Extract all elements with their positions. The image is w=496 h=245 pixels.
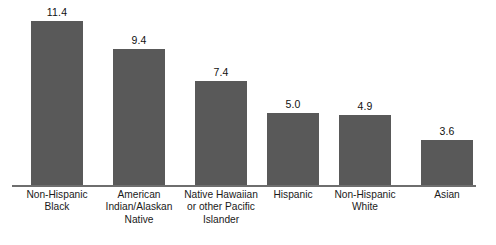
category-label-line: Native xyxy=(93,214,185,226)
bar xyxy=(195,81,247,185)
bar-group-native-hawaiian-pacific-islander: 7.4 xyxy=(195,0,247,186)
bar-value-label: 5.0 xyxy=(253,98,333,110)
bar-value-label: 11.4 xyxy=(17,6,97,18)
bar xyxy=(267,113,319,185)
category-label-non-hispanic-black: Non-Hispanic Black xyxy=(11,189,103,214)
category-label-line: Non-Hispanic xyxy=(11,189,103,201)
bar-value-label: 7.4 xyxy=(181,66,261,78)
category-label-non-hispanic-white: Non-Hispanic White xyxy=(319,189,411,214)
category-label-line: White xyxy=(319,201,411,213)
category-label-american-indian-alaskan-native: American Indian/Alaskan Native xyxy=(93,189,185,226)
bar-group-non-hispanic-black: 11.4 xyxy=(31,0,83,186)
bar xyxy=(421,140,473,185)
category-label-line: or other Pacific xyxy=(175,201,267,213)
category-label-asian: Asian xyxy=(401,189,493,201)
bar-value-label: 9.4 xyxy=(99,34,179,46)
bar-group-american-indian-alaskan-native: 9.4 xyxy=(113,0,165,186)
bar-value-label: 4.9 xyxy=(325,100,405,112)
category-label-line: Indian/Alaskan xyxy=(93,201,185,213)
category-label-line: Non-Hispanic xyxy=(319,189,411,201)
bar xyxy=(113,49,165,185)
category-label-line: American xyxy=(93,189,185,201)
bar xyxy=(31,21,83,185)
plot-area: 11.4 9.4 7.4 5.0 4.9 3.6 xyxy=(0,0,496,186)
bar-value-label: 3.6 xyxy=(407,125,487,137)
category-label-line: Asian xyxy=(401,189,493,201)
category-label-line: Islander xyxy=(175,214,267,226)
bar-group-non-hispanic-white: 4.9 xyxy=(339,0,391,186)
bar-group-hispanic: 5.0 xyxy=(267,0,319,186)
x-axis-line xyxy=(12,185,476,187)
bar xyxy=(339,115,391,185)
bar-group-asian: 3.6 xyxy=(421,0,473,186)
category-label-line: Black xyxy=(11,201,103,213)
bar-chart: 11.4 9.4 7.4 5.0 4.9 3.6 Non-Hispanic xyxy=(0,0,496,245)
x-axis-labels: Non-Hispanic Black American Indian/Alask… xyxy=(0,189,496,245)
